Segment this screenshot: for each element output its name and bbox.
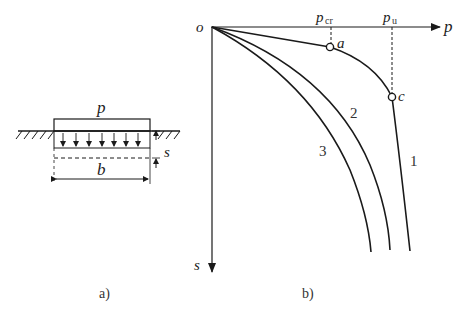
- footing: [54, 119, 150, 131]
- curve-2: [212, 27, 390, 250]
- settlement-label: s: [164, 144, 170, 160]
- origin-label: o: [196, 19, 204, 35]
- pressure-arrows: [63, 133, 138, 146]
- p-axis-label: p: [443, 17, 453, 36]
- s-axis-label: s: [194, 257, 200, 273]
- curve-1-label: 1: [410, 153, 418, 169]
- load-settlement-chart: o p s p cr p u a c 1 2 3 b): [194, 9, 453, 302]
- curve-3-label: 3: [319, 143, 327, 159]
- load-label: p: [96, 98, 106, 117]
- ground-hatch-right: [158, 131, 180, 139]
- pu-label: p: [382, 9, 391, 25]
- curve-3: [212, 27, 371, 252]
- caption-a: a): [99, 286, 110, 302]
- ground-hatch-left: [16, 131, 54, 139]
- curve-1: [212, 27, 410, 251]
- width-label: b: [97, 160, 106, 179]
- pu-subscript: u: [392, 15, 397, 26]
- point-c: [388, 93, 395, 100]
- pcr-subscript: cr: [325, 15, 333, 26]
- caption-b: b): [302, 286, 314, 302]
- figure-canvas: p b s a) o p s p cr p u a c 1 2 3 b): [0, 0, 457, 315]
- footing-diagram: p b s a): [16, 98, 180, 302]
- pcr-label: p: [315, 9, 324, 25]
- point-c-label: c: [398, 88, 405, 104]
- point-a-label: a: [337, 35, 345, 51]
- point-a: [326, 43, 333, 50]
- curve-2-label: 2: [350, 105, 358, 121]
